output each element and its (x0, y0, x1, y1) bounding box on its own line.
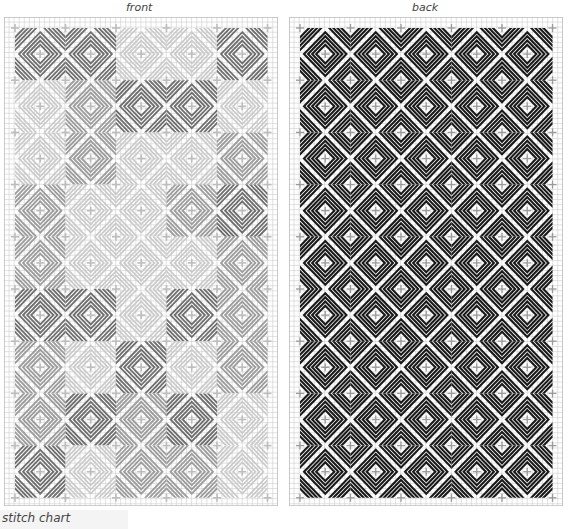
front-chart (4, 17, 278, 506)
front-label: front (126, 1, 152, 14)
back-chart (289, 17, 563, 506)
stitch-chart-caption: stitch chart (2, 511, 70, 525)
back-label: back (412, 1, 438, 14)
